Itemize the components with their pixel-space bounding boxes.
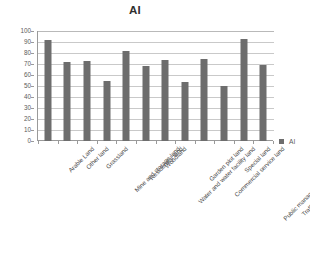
x-tick-mark (38, 141, 39, 144)
y-tick-mark-70 (31, 64, 34, 65)
y-tick-mark-60 (31, 75, 34, 76)
bar[interactable] (123, 51, 130, 141)
x-tick-mark (214, 141, 215, 144)
bar-slot (77, 31, 97, 141)
bar-slot (214, 31, 234, 141)
y-tick-label-30: 30 (24, 105, 31, 111)
y-tick-label-70: 70 (24, 61, 31, 67)
bar[interactable] (162, 60, 169, 141)
bar[interactable] (44, 40, 51, 141)
x-tick-mark (58, 141, 59, 144)
x-tick-mark (175, 141, 176, 144)
bar[interactable] (83, 61, 90, 141)
legend-entry-label: AI (289, 138, 295, 145)
bar-slot (195, 31, 215, 141)
y-tick-mark-20 (31, 119, 34, 120)
bar[interactable] (103, 81, 110, 142)
y-tick-label-50: 50 (24, 83, 31, 89)
y-tick-mark-100 (31, 31, 34, 32)
y-tick-mark-80 (31, 53, 34, 54)
y-tick-label-40: 40 (24, 94, 31, 100)
bar-slot (136, 31, 156, 141)
bar-chart: AI 1009080706050403020100 Arable LandOth… (0, 0, 310, 266)
y-tick-label-60: 60 (24, 72, 31, 78)
chart-title: AI (0, 4, 270, 16)
bar[interactable] (201, 59, 208, 142)
x-tick-mark (195, 141, 196, 144)
bar-slot (97, 31, 117, 141)
y-tick-mark-0 (31, 141, 34, 142)
bar-slot (116, 31, 136, 141)
bar-slot (156, 31, 176, 141)
bar[interactable] (221, 86, 228, 141)
bar[interactable] (260, 65, 267, 141)
bar[interactable] (64, 62, 71, 141)
x-tick-mark (273, 141, 274, 144)
bar-slot (234, 31, 254, 141)
bar-slot (253, 31, 273, 141)
bar-slot (175, 31, 195, 141)
bar[interactable] (240, 39, 247, 141)
x-tick-mark (253, 141, 254, 144)
bars-layer (38, 31, 273, 141)
y-tick-label-20: 20 (24, 116, 31, 122)
y-tick-label-100: 100 (20, 28, 31, 34)
bar[interactable] (142, 66, 149, 141)
y-tick-mark-40 (31, 97, 34, 98)
x-axis-labels: Arable LandOther landGrasslandMine and s… (0, 145, 310, 263)
y-tick-mark-10 (31, 130, 34, 131)
y-tick-mark-30 (31, 108, 34, 109)
x-tick-mark (156, 141, 157, 144)
y-axis: 1009080706050403020100 (0, 31, 35, 141)
x-tick-mark (234, 141, 235, 144)
legend-square-marker (279, 139, 284, 144)
y-tick-mark-90 (31, 42, 34, 43)
chart-legend: AI (279, 138, 295, 145)
y-tick-label-80: 80 (24, 50, 31, 56)
x-category-label: Water and water facility land (197, 145, 257, 205)
x-tick-mark (97, 141, 98, 144)
x-tick-mark (77, 141, 78, 144)
y-tick-label-10: 10 (24, 127, 31, 133)
x-tick-mark (136, 141, 137, 144)
x-tick-mark (116, 141, 117, 144)
y-tick-label-90: 90 (24, 39, 31, 45)
bar-slot (38, 31, 58, 141)
bar[interactable] (181, 82, 188, 141)
y-tick-mark-50 (31, 86, 34, 87)
bar-slot (58, 31, 78, 141)
